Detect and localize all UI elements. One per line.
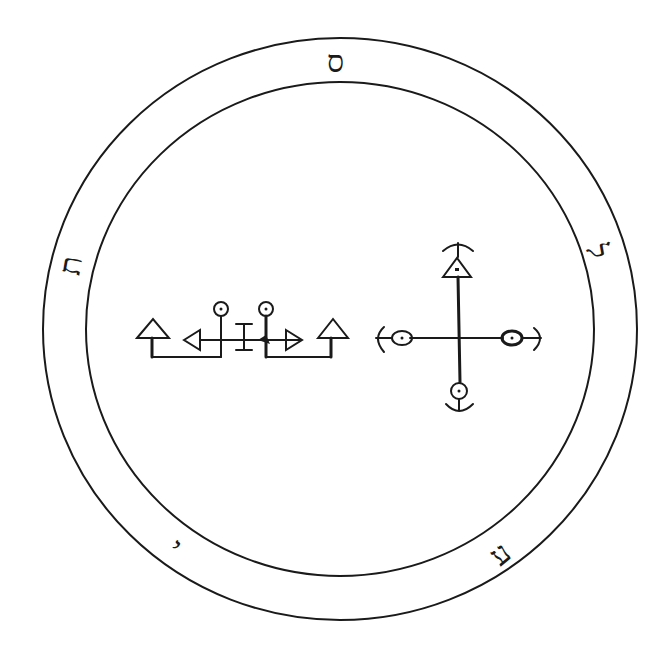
letter-right: ל <box>579 240 616 261</box>
letter-left: ת <box>51 253 89 277</box>
letter-top: ס <box>327 44 344 79</box>
left-sigil <box>137 302 348 357</box>
seal-drawing: ס ל ע י ת <box>0 0 662 647</box>
right-sigil <box>376 243 541 411</box>
letter-bottom-left: י <box>161 531 190 563</box>
